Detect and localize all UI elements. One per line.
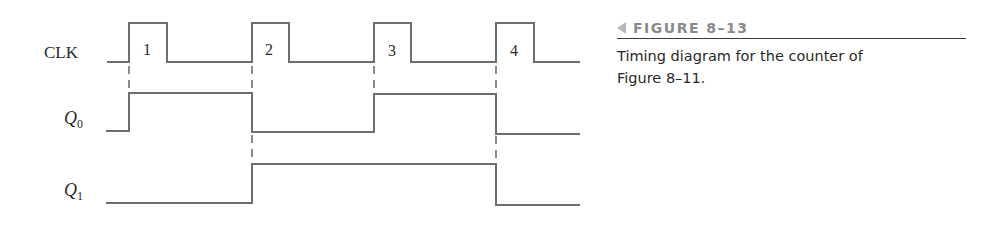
left-triangle-icon [617, 22, 626, 34]
q1-waveform [106, 164, 580, 205]
q0-label: Q0 [64, 108, 83, 131]
pulse-3-number: 3 [388, 42, 396, 59]
caption-text: Timing diagram for the counter of Figure… [617, 45, 977, 89]
q0-waveform [106, 93, 580, 134]
pulse-1-number: 1 [143, 41, 151, 58]
pulse-2-number: 2 [265, 41, 273, 58]
q1-label: Q1 [64, 180, 83, 203]
caption-line-2: Figure 8–11. [617, 67, 977, 89]
figure-number: FIGURE 8–13 [633, 20, 749, 36]
caption-line-1: Timing diagram for the counter of [617, 45, 977, 67]
timing-diagram: CLK Q0 Q1 1 2 3 4 [0, 0, 600, 225]
clk-label: CLK [44, 43, 79, 62]
pulse-4-number: 4 [510, 42, 518, 59]
figure-caption: FIGURE 8–13 Timing diagram for the count… [600, 20, 980, 89]
figure-header: FIGURE 8–13 [617, 20, 966, 39]
